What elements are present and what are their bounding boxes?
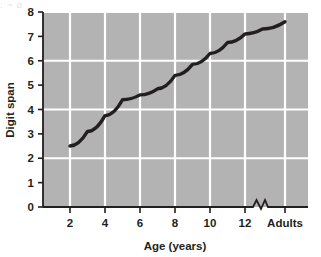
svg-text:8: 8 bbox=[28, 6, 35, 18]
svg-text:2: 2 bbox=[28, 152, 34, 164]
svg-text:12: 12 bbox=[239, 217, 252, 229]
svg-text:10: 10 bbox=[204, 217, 217, 229]
clipped-header-text: ; ~ g bbox=[0, 0, 321, 8]
digit-span-figure: ; ~ g 012345678 24681012Adults Age (year… bbox=[0, 0, 321, 257]
svg-text:3: 3 bbox=[28, 128, 34, 140]
y-axis-tick-labels: 012345678 bbox=[28, 6, 35, 213]
digit-span-line-chart: 012345678 24681012Adults Age (years) Dig… bbox=[0, 0, 321, 257]
svg-text:5: 5 bbox=[28, 79, 35, 91]
svg-text:6: 6 bbox=[137, 217, 143, 229]
svg-text:Adults: Adults bbox=[267, 217, 303, 229]
svg-text:8: 8 bbox=[172, 217, 179, 229]
svg-text:6: 6 bbox=[28, 55, 34, 67]
svg-text:0: 0 bbox=[28, 201, 34, 213]
y-axis-title: Digit span bbox=[4, 82, 16, 138]
svg-text:1: 1 bbox=[28, 177, 35, 189]
svg-text:7: 7 bbox=[28, 31, 34, 43]
svg-text:2: 2 bbox=[67, 217, 73, 229]
x-axis-tick-labels: 24681012Adults bbox=[67, 217, 303, 229]
svg-text:4: 4 bbox=[102, 217, 109, 229]
x-axis-title: Age (years) bbox=[144, 240, 207, 252]
svg-text:4: 4 bbox=[28, 104, 35, 116]
